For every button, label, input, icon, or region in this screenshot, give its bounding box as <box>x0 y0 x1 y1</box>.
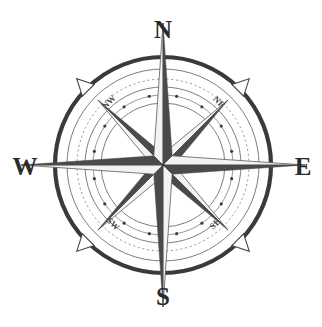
star-ray-east-light-half <box>163 156 305 165</box>
star-ray-northeast <box>163 100 228 165</box>
graduation-dot <box>200 105 203 108</box>
graduation-dot <box>175 95 178 98</box>
graduation-dot <box>93 177 96 180</box>
graduation-dot <box>220 202 223 205</box>
graduation-dot <box>175 232 178 235</box>
graduation-dot <box>123 222 126 225</box>
graduation-dot <box>230 177 233 180</box>
star-ray-west-dark-half <box>21 156 163 165</box>
ordinal-label-northwest: NW <box>100 93 118 111</box>
graduation-dot <box>93 150 96 153</box>
graduation-dot <box>103 202 106 205</box>
cardinal-label-west: W <box>13 153 38 180</box>
graduation-dot <box>103 125 106 128</box>
star-ray-west-light-half <box>21 165 163 174</box>
graduation-dot <box>220 125 223 128</box>
graduation-dot <box>200 222 203 225</box>
compass-center-pivot <box>161 163 164 166</box>
ordinal-label-northeast: NE <box>211 94 227 110</box>
graduation-dot <box>148 95 151 98</box>
graduation-dot <box>148 232 151 235</box>
graduation-dot <box>230 150 233 153</box>
star-ray-west <box>21 156 163 174</box>
star-ray-east <box>163 156 305 174</box>
cardinal-label-north: N <box>154 16 172 43</box>
star-ray-northeast-dark-half <box>163 100 228 165</box>
star-ray-north <box>154 23 172 165</box>
star-ray-north-dark-half <box>163 23 172 165</box>
compass-rose-diagram: NW NE SE SW N E S W <box>0 0 322 327</box>
graduation-dot <box>123 105 126 108</box>
compass-rose-figure: NW NE SE SW N E S W <box>0 0 322 327</box>
cardinal-label-south: S <box>156 283 170 310</box>
star-ray-north-light-half <box>154 23 163 165</box>
cardinal-label-east: E <box>295 153 312 180</box>
star-ray-east-dark-half <box>163 165 305 174</box>
